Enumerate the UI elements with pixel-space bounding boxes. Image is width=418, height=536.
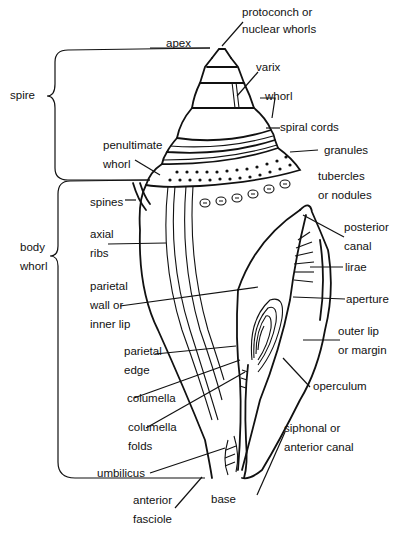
label-base: base: [211, 490, 236, 509]
label-spire: spire: [10, 86, 35, 105]
label-spiral-cords: spiral cords: [280, 118, 339, 137]
label-parietal-edge: parietal edge: [124, 342, 162, 380]
label-granules: granules: [324, 141, 368, 160]
label-spines: spines: [90, 193, 123, 212]
label-protoconch: protoconch or nuclear whorls: [242, 4, 316, 38]
shell-anatomy-diagram: apex protoconch or nuclear whorls varix …: [0, 0, 418, 536]
label-anterior-fasciole: anterior fasciole: [133, 491, 172, 529]
tubercles: [200, 180, 290, 207]
label-aperture: aperture: [346, 290, 389, 309]
label-parietal-wall: parietal wall or inner lip: [90, 277, 130, 334]
label-whorl: whorl: [265, 87, 292, 106]
label-varix: varix: [256, 58, 280, 77]
label-operculum: operculum: [313, 377, 367, 396]
label-penultimate-whorl: penultimate whorl: [103, 136, 162, 174]
label-body-whorl: body whorl: [20, 238, 47, 276]
label-apex: apex: [166, 34, 191, 53]
label-posterior-canal: posterior canal: [344, 218, 389, 256]
label-columella: columella: [127, 389, 176, 408]
label-siphonal-canal: siphonal or anterior canal: [284, 419, 354, 457]
label-umbilicus: umbilicus: [97, 464, 145, 483]
protoconch-outline: [212, 49, 231, 58]
label-tubercles: tubercles or nodules: [318, 167, 372, 205]
label-axial-ribs: axial ribs: [90, 225, 114, 263]
label-columella-folds: columella folds: [128, 418, 177, 456]
label-lirae: lirae: [345, 258, 367, 277]
operculum: [251, 299, 282, 372]
label-outer-lip: outer lip or margin: [338, 322, 387, 360]
